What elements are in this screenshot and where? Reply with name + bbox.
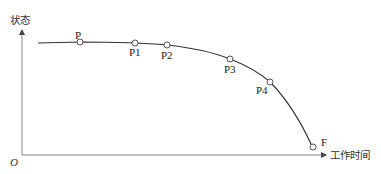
point-p3-label: P3	[224, 63, 236, 75]
pf-curve-diagram: 状态 工作时间 O P P1 P2 P3 P4 F	[0, 0, 381, 174]
point-p-label: P	[75, 29, 81, 41]
point-p4-marker	[267, 79, 273, 85]
x-axis-label: 工作时间	[330, 149, 370, 161]
y-axis-label: 状态	[10, 14, 31, 26]
point-f-label: F	[321, 136, 327, 148]
point-p1-label: P1	[129, 46, 141, 58]
point-f-marker	[310, 144, 316, 150]
origin-label: O	[10, 156, 18, 168]
point-p4-label: P4	[256, 84, 268, 96]
point-p3-marker	[227, 56, 233, 62]
point-p2-label: P2	[161, 49, 173, 61]
pf-curve	[38, 42, 312, 146]
point-p2-marker	[164, 42, 170, 48]
